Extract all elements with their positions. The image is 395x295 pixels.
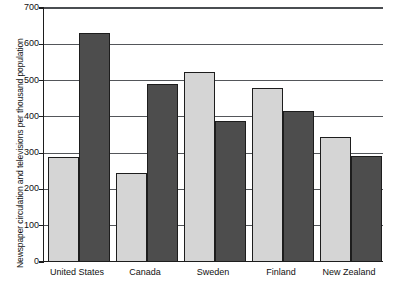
y-axis-tick-label: 100 xyxy=(9,221,39,230)
y-axis-tick xyxy=(39,261,44,262)
y-axis-tick-labels: 0100200300400500600700 xyxy=(8,0,39,262)
y-axis-tick-label: 200 xyxy=(9,184,39,193)
y-axis-tick-label: 700 xyxy=(9,3,39,12)
x-axis-tick-label: United States xyxy=(43,266,111,278)
y-axis-tick xyxy=(39,7,44,8)
y-axis-line xyxy=(43,8,44,262)
bar xyxy=(79,33,110,262)
y-axis-tick-label: 400 xyxy=(9,112,39,121)
y-axis-tick xyxy=(39,189,44,190)
x-axis-tick-label: Finland xyxy=(247,266,315,278)
x-axis-tick-label: New Zealand xyxy=(315,266,383,278)
bar-chart: Newspaper circulation and televisions pe… xyxy=(0,0,395,295)
bar xyxy=(48,157,79,262)
y-axis-tick-label: 500 xyxy=(9,76,39,85)
bar xyxy=(184,72,215,263)
y-axis-tick xyxy=(39,44,44,45)
x-axis-tick-label: Canada xyxy=(111,266,179,278)
gridline xyxy=(43,7,383,8)
y-axis-tick-label: 600 xyxy=(9,39,39,48)
y-axis-tick xyxy=(39,225,44,226)
bar xyxy=(116,173,147,262)
bar xyxy=(351,156,382,262)
y-axis-tick xyxy=(39,153,44,154)
y-axis-tick xyxy=(39,80,44,81)
plot-area xyxy=(43,8,383,262)
x-axis-tick-label: Sweden xyxy=(179,266,247,278)
y-axis-tick xyxy=(39,116,44,117)
bar xyxy=(283,111,314,262)
x-axis-tick-labels: United StatesCanadaSwedenFinlandNew Zeal… xyxy=(43,266,383,282)
bar xyxy=(252,88,283,262)
bar xyxy=(215,121,246,263)
y-axis-tick-label: 300 xyxy=(9,148,39,157)
bar xyxy=(147,84,178,262)
y-axis-tick-label: 0 xyxy=(9,257,39,266)
bar xyxy=(320,137,351,262)
